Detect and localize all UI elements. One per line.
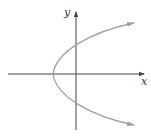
y-axis-label: y bbox=[63, 6, 71, 19]
parabola-diagram: y x bbox=[0, 0, 151, 140]
x-axis-label: x bbox=[141, 75, 148, 88]
